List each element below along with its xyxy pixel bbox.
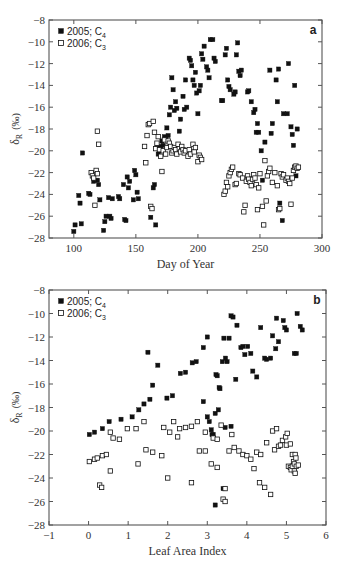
data-point-filled bbox=[289, 125, 293, 129]
data-point-open bbox=[87, 459, 91, 463]
data-point-filled bbox=[278, 201, 282, 205]
data-point-filled bbox=[88, 192, 92, 196]
data-point-open bbox=[268, 492, 272, 496]
data-point-open bbox=[166, 476, 170, 480]
data-point-filled bbox=[192, 83, 196, 87]
x-tick-label: 200 bbox=[190, 242, 207, 254]
y-tick-label: −14 bbox=[28, 355, 46, 367]
data-point-filled bbox=[260, 178, 264, 182]
data-point-open bbox=[232, 445, 236, 449]
data-point-open bbox=[93, 203, 97, 207]
data-point-open bbox=[264, 199, 268, 203]
data-point-open bbox=[175, 435, 179, 439]
data-point-open bbox=[193, 145, 197, 149]
y-tick-label: −26 bbox=[28, 496, 46, 508]
data-point-filled bbox=[128, 179, 132, 183]
data-point-filled bbox=[276, 67, 280, 71]
figure: −8−10−12−14−16−18−20−22−24−26−2810015020… bbox=[0, 0, 346, 570]
data-point-open bbox=[285, 431, 289, 435]
data-point-filled bbox=[109, 216, 113, 220]
panel-label: b bbox=[313, 293, 320, 307]
data-point-filled bbox=[236, 41, 240, 45]
data-point-open bbox=[223, 486, 227, 490]
data-point-open bbox=[278, 443, 282, 447]
data-point-filled bbox=[148, 397, 152, 401]
y-tick-label: −8 bbox=[33, 14, 45, 26]
data-point-open bbox=[293, 471, 297, 475]
y-tick-label: −14 bbox=[28, 79, 46, 91]
data-point-filled bbox=[125, 175, 129, 179]
data-point-open bbox=[187, 148, 191, 152]
data-point-open bbox=[155, 141, 159, 145]
data-point-open bbox=[203, 430, 207, 434]
data-point-filled bbox=[270, 121, 274, 125]
data-point-filled bbox=[97, 182, 101, 186]
data-point-open bbox=[150, 206, 154, 210]
data-point-open bbox=[145, 133, 149, 137]
data-point-filled bbox=[276, 340, 280, 344]
panel-b-leaf-area-index: −8−10−12−14−16−18−20−22−24−26−28−1012345… bbox=[8, 284, 329, 558]
data-point-open bbox=[136, 462, 140, 466]
x-tick-label: 4 bbox=[244, 529, 250, 541]
legend-marker-filled-square-icon bbox=[59, 299, 64, 304]
data-point-filled bbox=[170, 76, 174, 80]
data-point-filled bbox=[280, 218, 284, 222]
data-point-filled bbox=[126, 186, 130, 190]
data-point-filled bbox=[257, 130, 261, 134]
data-point-filled bbox=[151, 383, 155, 387]
data-point-filled bbox=[183, 370, 187, 374]
y-tick-label: −20 bbox=[28, 145, 46, 157]
data-point-filled bbox=[223, 53, 227, 57]
data-point-filled bbox=[227, 336, 231, 340]
data-point-filled bbox=[259, 149, 263, 153]
x-tick-label: 2 bbox=[165, 529, 171, 541]
data-point-open bbox=[134, 426, 138, 430]
data-point-filled bbox=[194, 360, 198, 364]
legend-item: 2006; C3 bbox=[59, 38, 107, 51]
x-axis-title: Leaf Area Index bbox=[149, 544, 227, 558]
data-point-open bbox=[230, 432, 234, 436]
data-point-filled bbox=[100, 427, 104, 431]
data-point-filled bbox=[198, 83, 202, 87]
data-point-open bbox=[262, 485, 266, 489]
data-point-filled bbox=[207, 420, 211, 424]
data-point-filled bbox=[110, 197, 114, 201]
data-point-open bbox=[252, 466, 256, 470]
data-point-filled bbox=[200, 52, 204, 56]
data-point-open bbox=[203, 449, 207, 453]
data-point-open bbox=[258, 171, 262, 175]
data-point-filled bbox=[166, 133, 170, 137]
data-point-filled bbox=[135, 190, 139, 194]
data-point-open bbox=[296, 463, 300, 467]
data-point-open bbox=[125, 426, 129, 430]
y-tick-label: −18 bbox=[28, 123, 46, 135]
data-point-open bbox=[260, 204, 264, 208]
data-point-filled bbox=[269, 131, 273, 135]
data-point-filled bbox=[79, 222, 83, 226]
y-tick-label: −22 bbox=[28, 167, 45, 179]
data-point-filled bbox=[295, 311, 299, 315]
data-point-open bbox=[108, 469, 112, 473]
data-point-filled bbox=[215, 374, 219, 378]
data-point-filled bbox=[178, 371, 182, 375]
data-point-filled bbox=[102, 228, 106, 232]
data-point-filled bbox=[224, 46, 228, 50]
data-point-open bbox=[259, 452, 263, 456]
data-point-open bbox=[253, 176, 257, 180]
data-point-open bbox=[156, 134, 160, 138]
data-point-open bbox=[142, 144, 146, 148]
series-c3-2006 bbox=[87, 419, 300, 503]
data-point-filled bbox=[238, 73, 242, 77]
data-point-open bbox=[91, 176, 95, 180]
data-point-filled bbox=[177, 129, 181, 133]
x-tick-label: 6 bbox=[323, 529, 329, 541]
data-point-filled bbox=[146, 350, 150, 354]
data-point-open bbox=[95, 129, 99, 133]
data-point-open bbox=[223, 499, 227, 503]
data-point-filled bbox=[274, 347, 278, 351]
data-point-filled bbox=[216, 408, 220, 412]
data-point-open bbox=[117, 437, 121, 441]
data-point-filled bbox=[226, 78, 230, 82]
y-tick-label: −28 bbox=[28, 232, 46, 244]
plot-frame bbox=[49, 290, 326, 525]
